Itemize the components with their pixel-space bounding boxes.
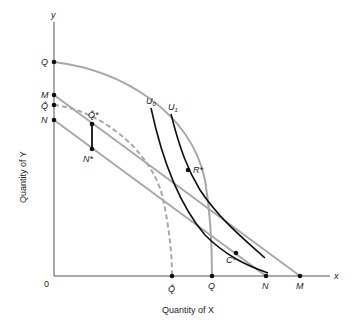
y-axis-symbol: y [50,10,56,20]
Qhat-star-point [90,122,95,127]
diagram-canvas: y x 0 Q̂* N* R* C* U0 U1 Q M Q̂ N Q̂ Q N… [0,0,360,333]
y-axis-point-M [52,93,57,98]
C-star-label: C* [226,255,236,265]
y-axis-point-Qhat [52,103,57,108]
U1-label: U1 [168,102,178,113]
x-axis-point-Qhat [170,274,175,279]
ppf-Qhat-curve [54,105,172,276]
x-axis-point-N [264,274,269,279]
y-label-M: M [41,90,49,100]
U0-label: U0 [146,96,157,107]
x-label-Qhat: Q̂ [168,284,175,294]
x-axis-title: Quantity of X [162,305,214,315]
N-star-label: N* [83,154,93,164]
indifference-curve-U0 [151,108,268,273]
Qhat-star-label: Q̂* [88,110,99,120]
y-label-N: N [41,115,48,125]
y-label-Qhat: Q̂ [41,101,48,111]
origin-label: 0 [44,279,49,289]
N-star-point [90,147,95,152]
y-label-Q: Q [41,57,48,67]
x-axis-symbol: x [333,271,339,281]
R-star-point [186,168,191,173]
x-axis-point-M [298,274,303,279]
x-label-Q: Q [208,281,215,291]
R-star-label: R* [193,165,203,175]
x-axis-point-Q [210,274,215,279]
y-axis-point-N [52,118,57,123]
x-label-M: M [296,281,304,291]
y-axis-point-Q [52,60,57,65]
x-label-N: N [262,281,269,291]
y-axis-title: Quantity of Y [18,151,28,203]
